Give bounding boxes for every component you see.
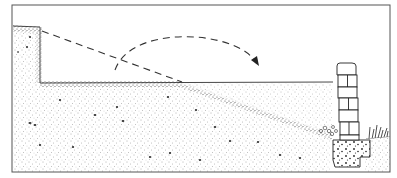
wall-footing <box>333 140 370 167</box>
retaining-wall <box>337 63 359 140</box>
arrowhead-icon <box>251 56 259 66</box>
diagram-canvas <box>0 0 397 178</box>
cut-fill-diagram <box>0 0 397 178</box>
grass-tuft <box>366 125 390 139</box>
original-slope-dashed-line <box>42 31 182 82</box>
